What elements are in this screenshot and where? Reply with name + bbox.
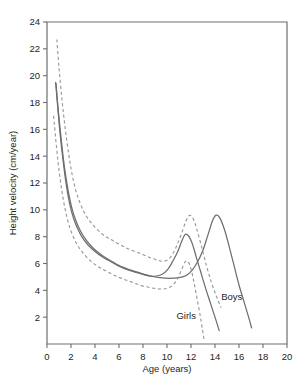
- figure-container: 02468101214161820 24681012141618202224 B…: [0, 0, 305, 388]
- y-tick-label: 6: [35, 258, 40, 269]
- y-tick-label: 2: [35, 312, 40, 323]
- y-tick-label: 20: [29, 70, 40, 81]
- x-tick-label: 8: [140, 351, 145, 362]
- curve-2: [57, 39, 221, 307]
- height-velocity-chart: 02468101214161820 24681012141618202224 B…: [0, 0, 305, 388]
- curve-0: [56, 82, 220, 330]
- x-tick-label: 12: [186, 351, 197, 362]
- x-tick-label: 2: [68, 351, 73, 362]
- x-tick-label: 6: [116, 351, 121, 362]
- y-tick-label: 4: [35, 285, 40, 296]
- axis-frame: [47, 22, 287, 344]
- x-tick-label: 10: [162, 351, 173, 362]
- x-tick-label: 18: [258, 351, 269, 362]
- y-tick-label: 10: [29, 204, 40, 215]
- x-tick-label: 4: [92, 351, 97, 362]
- x-tick-label: 20: [282, 351, 293, 362]
- y-tick-label: 14: [29, 151, 40, 162]
- y-tick-label: 22: [29, 43, 40, 54]
- y-tick-label: 24: [29, 16, 40, 27]
- curve-3: [54, 116, 205, 340]
- y-axis-ticks: 24681012141618202224: [29, 16, 47, 322]
- y-axis-title: Height velocity (cm/year): [7, 131, 18, 236]
- y-tick-label: 16: [29, 124, 40, 135]
- annotation-girls: Girls: [176, 310, 196, 321]
- series-annotations: BoysGirls: [176, 291, 242, 321]
- x-axis-ticks: 02468101214161820: [44, 344, 292, 362]
- x-tick-label: 16: [234, 351, 245, 362]
- y-tick-label: 8: [35, 231, 40, 242]
- plot-frame: [47, 22, 287, 344]
- x-axis-title: Age (years): [142, 363, 191, 374]
- annotation-boys: Boys: [221, 291, 242, 302]
- x-tick-label: 14: [210, 351, 221, 362]
- y-tick-label: 18: [29, 97, 40, 108]
- y-tick-label: 12: [29, 177, 40, 188]
- x-tick-label: 0: [44, 351, 49, 362]
